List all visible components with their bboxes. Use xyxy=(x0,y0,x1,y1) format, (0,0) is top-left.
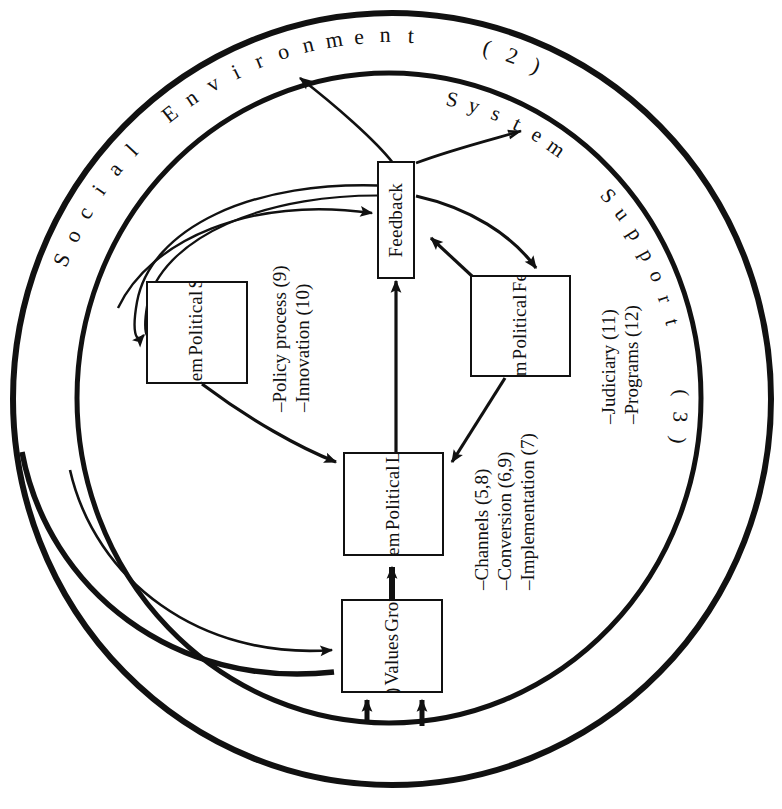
note-programs: –Programs (12) xyxy=(620,305,643,424)
local-line-2: Political xyxy=(382,465,404,530)
inner-ring-label-char: 3 xyxy=(668,411,694,423)
state-line-2: Political xyxy=(186,291,208,356)
feedback-box[interactable]: Feedback xyxy=(377,161,415,279)
federal-political-system-box[interactable]: System Political Federal xyxy=(470,275,571,377)
group-line-3: (4) xyxy=(381,687,403,693)
outer-ring-label-char: n xyxy=(379,22,390,48)
channels-conversion-implementation-notes: –Channels (5,8) –Conversion (6,9) –Imple… xyxy=(470,433,540,590)
federal-line-1: Federal xyxy=(509,275,531,292)
flow-feedback-to-system-support xyxy=(416,131,521,163)
outer-ring-label-char: t xyxy=(407,22,414,48)
note-implementation: –Implementation (7) xyxy=(516,433,539,590)
local-line-1: Local xyxy=(382,452,404,463)
flow-feedback-to-social-environment xyxy=(300,78,393,163)
state-line-1: State xyxy=(186,281,208,289)
note-judiciary: –Judiciary (11) xyxy=(597,305,620,424)
feedback-box-label: Feedback xyxy=(385,183,407,257)
note-conversion: –Conversion (6,9) xyxy=(493,433,516,590)
group-values-box[interactable]: (4) Values Group xyxy=(341,599,443,693)
state-political-system-lines: System Political State xyxy=(186,281,208,384)
outer-ring-label-char: m xyxy=(323,26,344,54)
inner-ring-label-char: ( xyxy=(668,389,693,396)
federal-line-2: Political xyxy=(509,294,531,359)
note-channels: –Channels (5,8) xyxy=(470,433,493,590)
note-innovation: –Innovation (10) xyxy=(291,265,314,412)
flow-feedback-to-federal xyxy=(416,196,536,268)
note-policy-process: –Policy process (9) xyxy=(268,265,291,412)
group-line-1: Group xyxy=(381,599,403,631)
group-values-lines: (4) Values Group xyxy=(381,599,403,693)
local-political-system-lines: System Political Local xyxy=(382,452,404,556)
federal-political-system-lines: System Political Federal xyxy=(509,275,531,377)
local-line-3: System xyxy=(382,532,404,556)
state-line-3: System xyxy=(186,358,208,384)
policy-innovation-notes: –Policy process (9) –Innovation (10) xyxy=(268,265,314,412)
group-line-2: Values xyxy=(381,633,403,685)
judiciary-programs-notes: –Judiciary (11) –Programs (12) xyxy=(597,305,643,424)
diagram-canvas: Feedback System Political State System P… xyxy=(0,0,782,809)
state-political-system-box[interactable]: System Political State xyxy=(146,281,248,384)
local-political-system-box[interactable]: System Political Local xyxy=(343,452,444,556)
federal-line-3: System xyxy=(509,361,531,377)
